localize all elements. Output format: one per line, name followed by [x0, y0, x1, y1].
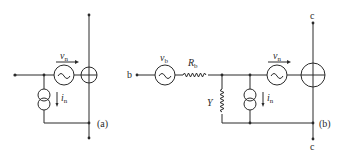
top-terminal-label: c [310, 10, 315, 21]
panel-a: vn in (a) [13, 14, 108, 140]
circuit-diagram: vn in (a) b vb [0, 0, 342, 154]
arrowhead-icon [287, 60, 291, 64]
signal-voltage-source-b [155, 65, 175, 85]
rb-label: Rb [187, 57, 198, 70]
arrowhead-icon [262, 103, 265, 107]
vn-label-b: vn [273, 50, 281, 63]
noise-current-source-a [38, 89, 50, 110]
arrowhead-icon [56, 103, 59, 107]
terminal-dot [312, 22, 315, 25]
panel-label-b: (b) [319, 118, 331, 130]
admittance-y [220, 89, 224, 112]
vn-label-a: vn [60, 50, 68, 63]
in-label-a: in [61, 92, 68, 105]
bottom-terminal-label: c [310, 141, 315, 152]
arrowhead-icon [75, 60, 79, 64]
junction-dot [88, 122, 91, 125]
terminal-dot [312, 138, 315, 141]
noise-voltage-source-b [267, 65, 287, 85]
in-label-b: in [267, 92, 274, 105]
panel-b: b vb Rb Y in [127, 10, 331, 152]
input-terminal-label-b: b [127, 69, 132, 80]
panel-label-a: (a) [97, 118, 108, 130]
y-label: Y [207, 97, 214, 108]
source-resistor-rb [183, 73, 206, 77]
noise-current-source-b [244, 89, 256, 110]
noise-voltage-source-a [54, 65, 74, 85]
terminal-dot [88, 137, 91, 140]
terminal-dot [88, 14, 91, 17]
vb-label: vb [160, 52, 168, 65]
